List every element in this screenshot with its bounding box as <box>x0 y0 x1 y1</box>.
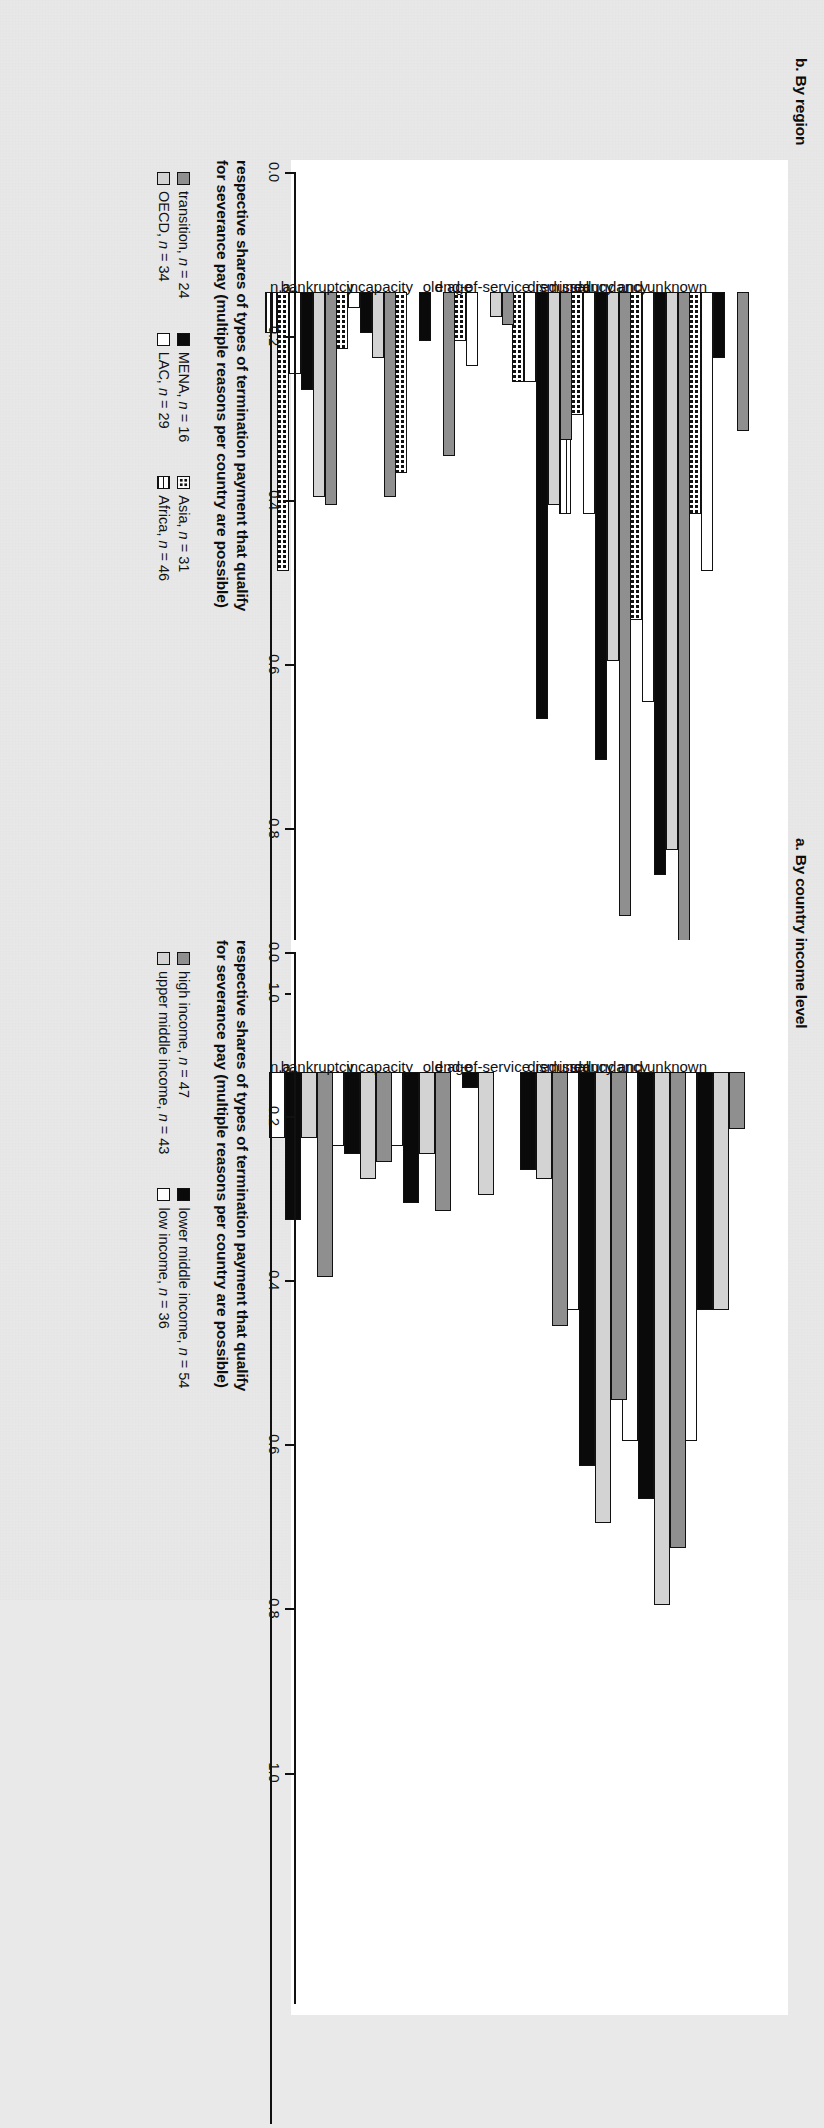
bar <box>325 292 337 505</box>
panel-a-plot-canvas: redundancy and unknownredundancydismissa… <box>291 940 788 2015</box>
legend-swatch-icon <box>158 1188 171 1201</box>
category-label: old age <box>422 278 471 295</box>
value-tick <box>285 952 294 954</box>
legend-label: transition, n = 24 <box>176 191 192 299</box>
legend-swatch-icon <box>178 952 191 965</box>
category-label: dismissal <box>527 1058 589 1075</box>
legend-swatch-icon <box>158 952 171 965</box>
category-label: dismissal <box>527 278 589 295</box>
value-tick-label: 0.8 <box>266 1598 282 1618</box>
value-tick <box>285 664 294 666</box>
value-tick-label: 0.6 <box>266 1434 282 1454</box>
legend-item: low income, n = 36 <box>156 1188 172 1388</box>
bar <box>435 1072 451 1211</box>
bar <box>536 1072 552 1179</box>
bar <box>419 292 431 341</box>
bar <box>552 1072 568 1326</box>
bar <box>336 292 348 349</box>
category-label: incapacity <box>346 278 413 295</box>
bar <box>502 292 514 325</box>
bar-group <box>387 1072 451 2124</box>
bar <box>403 1072 419 1203</box>
bar <box>490 292 502 317</box>
bar <box>344 1072 360 1154</box>
panel-b-legend: transition, n = 24OECD, n = 34MENA, n = … <box>156 172 192 581</box>
bar <box>376 1072 392 1162</box>
bar <box>395 292 407 473</box>
bar <box>642 292 654 702</box>
bar <box>630 292 642 620</box>
panel-b-title: b. By region <box>792 58 810 145</box>
legend-item: MENA, n = 16 <box>176 333 192 443</box>
bar <box>689 292 701 514</box>
bar-group <box>446 1072 510 2124</box>
bar <box>729 1072 745 1129</box>
legend-label: high income, n = 47 <box>176 971 192 1098</box>
bar-group <box>622 1072 686 2124</box>
bar <box>360 292 372 333</box>
bar <box>607 292 619 661</box>
bar <box>654 292 666 875</box>
legend-item: Asia, n = 31 <box>176 476 192 581</box>
legend-swatch-icon <box>178 1188 191 1201</box>
bar <box>360 1072 376 1179</box>
value-tick <box>285 336 294 338</box>
figure-panel-a: a. By country income level redundancy an… <box>44 820 824 2128</box>
value-tick-label: 0.4 <box>266 490 282 510</box>
bar <box>478 1072 494 1195</box>
value-tick <box>285 1444 294 1446</box>
panel-a-title: a. By country income level <box>792 838 810 1028</box>
value-tick-label: 0.6 <box>266 654 282 674</box>
legend-item: high income, n = 47 <box>176 952 192 1154</box>
category-label: old age <box>422 1058 471 1075</box>
bar <box>372 292 384 358</box>
legend-label: Asia, n = 31 <box>176 495 192 572</box>
legend-label: LAC, n = 29 <box>156 352 172 429</box>
bar <box>701 292 713 571</box>
bar <box>317 1072 333 1277</box>
legend-item: OECD, n = 34 <box>156 172 172 299</box>
value-tick-label: 0.0 <box>266 942 282 962</box>
panel-b-axis-title-line2: for severance pay (multiple reasons per … <box>212 160 232 611</box>
bar <box>713 292 725 358</box>
panel-a-legend: high income, n = 47upper middle income, … <box>156 952 192 1388</box>
legend-item: upper middle income, n = 43 <box>156 952 172 1154</box>
panel-a-value-axis <box>294 952 296 2004</box>
panel-a-plot-area <box>272 1072 742 2124</box>
bar <box>595 292 607 760</box>
bar <box>595 1072 611 1523</box>
value-tick <box>285 1608 294 1610</box>
legend-swatch-icon <box>158 476 171 489</box>
bar <box>697 1072 713 1310</box>
value-tick-label: 0.4 <box>266 1270 282 1290</box>
bar <box>638 1072 654 1499</box>
bar <box>654 1072 670 1605</box>
bar <box>713 1072 729 1310</box>
bar <box>419 1072 435 1154</box>
bar-group <box>563 1072 627 2124</box>
value-tick <box>285 1773 294 1775</box>
bar <box>384 292 396 497</box>
category-label: n.a. <box>270 1058 295 1075</box>
bar <box>443 292 455 456</box>
legend-item: Africa, n = 46 <box>156 476 172 581</box>
legend-label: OECD, n = 34 <box>156 191 172 282</box>
bar <box>560 292 572 440</box>
bar-group <box>504 1072 568 2124</box>
category-label: incapacity <box>346 1058 413 1075</box>
panel-b-axis-title-line1: respective shares of types of terminatio… <box>232 160 252 611</box>
legend-item: LAC, n = 29 <box>156 333 172 443</box>
bar <box>571 292 583 415</box>
legend-swatch-icon <box>178 476 191 489</box>
legend-label: lower middle income, n = 54 <box>176 1207 192 1388</box>
legend-swatch-icon <box>158 333 171 346</box>
legend-swatch-icon <box>178 333 191 346</box>
legend-label: Africa, n = 46 <box>156 495 172 581</box>
legend-label: upper middle income, n = 43 <box>156 971 172 1154</box>
category-label: n.a. <box>270 278 295 295</box>
bar <box>301 292 313 390</box>
legend-swatch-icon <box>158 172 171 185</box>
legend-item: lower middle income, n = 54 <box>176 1188 192 1388</box>
panel-b-axis-title: respective shares of types of terminatio… <box>212 160 252 611</box>
bar <box>670 1072 686 1548</box>
